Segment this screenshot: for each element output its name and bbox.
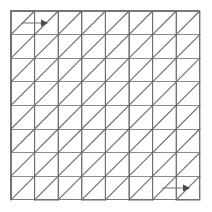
path-diagonal bbox=[82, 105, 106, 129]
path-diagonal bbox=[129, 105, 153, 129]
path-diagonal bbox=[176, 35, 200, 59]
path-diagonal bbox=[176, 58, 200, 82]
start-arrow-head bbox=[41, 19, 48, 26]
path-diagonal bbox=[153, 129, 177, 153]
path-diagonal bbox=[82, 176, 106, 200]
path-diagonal bbox=[153, 11, 177, 35]
path-diagonal bbox=[35, 35, 59, 59]
path-diagonal bbox=[105, 35, 129, 59]
path-diagonal bbox=[176, 11, 200, 35]
path-diagonal bbox=[35, 129, 59, 153]
path-diagonal bbox=[129, 11, 153, 35]
path-diagonal bbox=[176, 82, 200, 106]
path-diagonal bbox=[153, 35, 177, 59]
path-diagonal bbox=[11, 176, 35, 200]
end-arrow-head bbox=[183, 184, 190, 191]
path-diagonal bbox=[82, 11, 106, 35]
path-diagonal bbox=[105, 153, 129, 177]
path-diagonal bbox=[82, 35, 106, 59]
path-diagonal bbox=[58, 82, 82, 106]
path-diagonal bbox=[35, 58, 59, 82]
path-diagonal bbox=[11, 35, 35, 59]
path-diagonal bbox=[11, 82, 35, 106]
path-diagonal bbox=[58, 35, 82, 59]
path-diagonal bbox=[176, 129, 200, 153]
path-diagonal bbox=[11, 58, 35, 82]
path-diagonal bbox=[105, 11, 129, 35]
path-diagonal bbox=[129, 58, 153, 82]
path-diagonal bbox=[58, 58, 82, 82]
grid-diagram-svg bbox=[0, 0, 212, 212]
path-diagonal bbox=[129, 82, 153, 106]
path-diagonal bbox=[105, 82, 129, 106]
path-diagonal bbox=[11, 129, 35, 153]
path-diagonal bbox=[11, 153, 35, 177]
path-diagonal bbox=[153, 105, 177, 129]
path-diagonal bbox=[105, 129, 129, 153]
path-diagonal bbox=[105, 176, 129, 200]
figure-root bbox=[0, 0, 212, 212]
path-diagonal bbox=[58, 11, 82, 35]
path-diagonal bbox=[129, 153, 153, 177]
path-diagonal bbox=[153, 58, 177, 82]
path-diagonal bbox=[82, 129, 106, 153]
path-diagonal bbox=[176, 153, 200, 177]
path-diagonal bbox=[82, 82, 106, 106]
path-diagonal bbox=[82, 58, 106, 82]
path-diagonal bbox=[35, 153, 59, 177]
path-diagonal bbox=[105, 58, 129, 82]
path-diagonal bbox=[35, 82, 59, 106]
path-diagonal bbox=[82, 153, 106, 177]
path-diagonal bbox=[153, 153, 177, 177]
path-diagonal bbox=[11, 105, 35, 129]
path-diagonal bbox=[35, 176, 59, 200]
path-diagonal bbox=[58, 105, 82, 129]
path-diagonal bbox=[129, 35, 153, 59]
path-diagonal bbox=[58, 129, 82, 153]
path-diagonal bbox=[105, 105, 129, 129]
path-diagonal bbox=[176, 105, 200, 129]
path-diagonal bbox=[35, 105, 59, 129]
path-diagonal bbox=[153, 82, 177, 106]
path-diagonal bbox=[58, 176, 82, 200]
path-diagonal bbox=[129, 129, 153, 153]
path-diagonal bbox=[129, 176, 153, 200]
path-diagonal bbox=[58, 153, 82, 177]
